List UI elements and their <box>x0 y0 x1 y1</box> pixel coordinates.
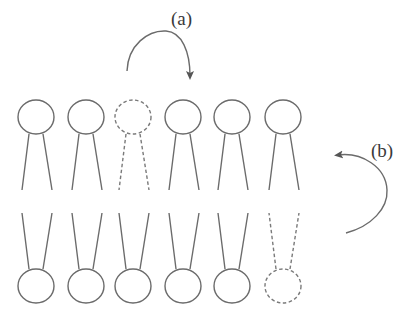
lipid-tail-icon <box>169 213 176 269</box>
lipid-tail-icon <box>119 213 126 269</box>
arrow-a-lateral-diffusion <box>127 31 190 76</box>
diagram-canvas <box>0 0 406 320</box>
lipid-bilayer-diagram: (a) (b) <box>0 0 406 320</box>
upper-lipid-4 <box>165 100 201 190</box>
lipid-head-icon <box>214 100 250 134</box>
lipid-head-icon <box>165 269 201 303</box>
lipid-head-icon <box>214 269 250 303</box>
lipid-head-icon <box>18 269 54 303</box>
lower-lipid-6-dashed <box>265 213 301 303</box>
lipid-head-icon <box>18 100 54 134</box>
lipid-tail-icon <box>239 213 248 269</box>
curved-arrow-icon <box>338 155 387 233</box>
upper-lipid-6 <box>265 100 301 190</box>
lipid-tail-icon <box>290 213 299 269</box>
lipid-tail-icon <box>169 134 176 190</box>
lipid-tail-icon <box>22 213 29 269</box>
lower-lipid-1 <box>18 213 54 303</box>
lipid-tail-icon <box>190 134 199 190</box>
lipid-tail-icon <box>119 134 126 190</box>
curved-arrow-icon <box>127 31 190 76</box>
lipid-tail-icon <box>269 213 276 269</box>
lipid-tail-icon <box>93 134 102 190</box>
lipid-head-icon <box>115 269 151 303</box>
lipid-head-icon <box>165 100 201 134</box>
arrow-b-flip-flop <box>338 155 387 233</box>
lipid-tail-icon <box>218 213 225 269</box>
lipid-head-icon <box>115 100 151 134</box>
label-a: (a) <box>171 9 192 28</box>
lipid-head-icon <box>68 100 104 134</box>
lower-leaflet <box>18 213 301 303</box>
lipid-tail-icon <box>72 134 79 190</box>
lipid-tail-icon <box>239 134 248 190</box>
upper-lipid-3-dashed <box>115 100 151 190</box>
upper-lipid-1 <box>18 100 54 190</box>
upper-leaflet <box>18 100 301 190</box>
lower-lipid-3 <box>115 213 151 303</box>
lower-lipid-5 <box>214 213 250 303</box>
lower-lipid-2 <box>68 213 104 303</box>
lipid-tail-icon <box>140 134 149 190</box>
lipid-tail-icon <box>22 134 29 190</box>
lipid-tail-icon <box>290 134 299 190</box>
upper-lipid-5 <box>214 100 250 190</box>
lipid-tail-icon <box>43 213 52 269</box>
lipid-tail-icon <box>43 134 52 190</box>
lipid-tail-icon <box>190 213 199 269</box>
lower-lipid-4 <box>165 213 201 303</box>
lipid-head-icon <box>265 100 301 134</box>
lipid-head-icon <box>68 269 104 303</box>
lipid-tail-icon <box>218 134 225 190</box>
label-b: (b) <box>371 141 393 160</box>
lipid-tail-icon <box>269 134 276 190</box>
lipid-tail-icon <box>140 213 149 269</box>
lipid-tail-icon <box>93 213 102 269</box>
lipid-tail-icon <box>72 213 79 269</box>
upper-lipid-2 <box>68 100 104 190</box>
lipid-head-icon <box>265 269 301 303</box>
